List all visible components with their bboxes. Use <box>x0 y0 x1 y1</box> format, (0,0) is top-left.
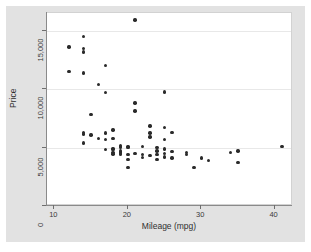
gridline <box>47 89 291 90</box>
data-point <box>148 131 151 134</box>
data-point <box>82 141 85 144</box>
data-point <box>104 91 107 94</box>
data-point <box>67 70 70 73</box>
data-point <box>163 147 166 150</box>
data-point <box>111 137 114 140</box>
data-point <box>133 152 136 155</box>
y-axis-tick-label: 0 <box>36 205 45 245</box>
data-point <box>97 83 100 86</box>
data-point <box>104 138 107 141</box>
x-axis-tick <box>127 205 128 209</box>
data-point <box>192 166 195 169</box>
data-point <box>148 135 151 138</box>
data-point <box>170 156 173 159</box>
data-point <box>236 161 239 164</box>
data-point <box>104 131 107 134</box>
y-axis-tick-label: 5,000 <box>36 147 45 187</box>
data-point <box>207 159 210 162</box>
data-point <box>155 158 158 161</box>
x-axis-title: Mileage (mpg) <box>46 221 292 231</box>
data-point <box>200 156 203 159</box>
data-point <box>163 90 166 93</box>
y-axis-tick-label: 15,000 <box>36 30 45 70</box>
data-point <box>163 126 166 129</box>
data-point <box>111 152 114 155</box>
data-point <box>82 50 85 53</box>
figure-canvas: Mileage (mpg) Price 1020304005,00010,000… <box>6 6 305 242</box>
data-point <box>104 148 107 151</box>
data-point <box>82 132 85 135</box>
data-point <box>82 35 85 38</box>
data-point <box>126 166 129 169</box>
x-axis-tick-label: 30 <box>196 210 204 219</box>
data-point <box>111 128 114 131</box>
data-point <box>141 156 144 159</box>
gridline <box>47 31 291 32</box>
plot-region <box>46 12 292 205</box>
data-point <box>119 153 122 156</box>
data-point <box>163 138 166 141</box>
data-point <box>148 124 151 127</box>
x-axis-tick <box>200 205 201 209</box>
gridline <box>47 148 291 149</box>
data-point <box>170 131 173 134</box>
data-point <box>170 150 173 153</box>
data-point <box>89 113 92 116</box>
data-point <box>67 45 70 48</box>
data-point <box>133 18 136 21</box>
x-axis-tick <box>53 205 54 209</box>
data-point <box>126 158 129 161</box>
data-point <box>280 145 283 148</box>
data-point <box>163 155 166 158</box>
data-point <box>133 101 136 104</box>
data-point <box>104 64 107 67</box>
data-point <box>155 149 158 152</box>
x-axis-line <box>46 205 292 206</box>
y-axis-tick-label: 10,000 <box>36 88 45 128</box>
data-point <box>126 153 129 156</box>
y-axis-line <box>46 12 47 205</box>
x-axis-tick-label: 10 <box>49 210 57 219</box>
data-point <box>155 153 158 156</box>
data-point <box>97 137 100 140</box>
data-point <box>82 71 85 74</box>
data-point <box>229 151 232 154</box>
data-point <box>148 154 151 157</box>
y-axis-title: Price <box>8 89 18 108</box>
x-axis-tick-label: 40 <box>269 210 277 219</box>
data-point <box>133 109 136 112</box>
data-point <box>126 146 129 149</box>
x-axis-tick-label: 20 <box>123 210 131 219</box>
x-axis-tick <box>274 205 275 209</box>
data-point <box>185 153 188 156</box>
data-point <box>236 149 239 152</box>
data-point <box>89 133 92 136</box>
